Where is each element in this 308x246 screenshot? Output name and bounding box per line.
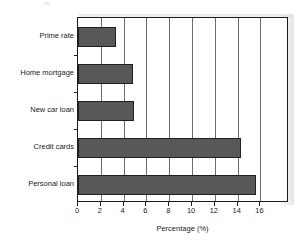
y-axis-label-personal-loan: Personal loan — [2, 179, 74, 188]
x-axis-tick-label-14: 14 — [233, 206, 241, 215]
x-axis-tick-label-8: 8 — [166, 206, 170, 215]
gridline-16 — [260, 18, 261, 201]
x-axis-tick-label-16: 16 — [255, 206, 263, 215]
bar — [78, 138, 241, 158]
y-axis-label-credit-cards: Credit cards — [2, 142, 74, 151]
x-axis-tick-label-12: 12 — [210, 206, 218, 215]
bar — [78, 27, 116, 47]
scan-artifact — [44, 2, 51, 5]
plot-area — [77, 17, 288, 202]
bar-chart-figure: Prime rateHome mortgageNew car loanCredi… — [0, 0, 308, 246]
x-axis-tick-label-2: 2 — [98, 206, 102, 215]
y-axis-label-prime-rate: Prime rate — [2, 31, 74, 40]
y-axis-category-labels: Prime rateHome mortgageNew car loanCredi… — [0, 17, 74, 202]
y-axis-minor-tick — [74, 92, 78, 93]
y-axis-minor-tick — [74, 55, 78, 56]
y-axis-label-new-car-loan: New car loan — [2, 105, 74, 114]
x-axis-title: Percentage (%) — [77, 224, 288, 233]
y-axis-minor-tick — [74, 129, 78, 130]
y-axis-minor-tick — [74, 166, 78, 167]
x-axis-tick-labels: 0246810121416 — [77, 206, 288, 218]
x-axis-tick-label-4: 4 — [121, 206, 125, 215]
bar — [78, 175, 256, 195]
x-axis-tick-label-6: 6 — [143, 206, 147, 215]
x-axis-tick-label-10: 10 — [187, 206, 195, 215]
x-axis-tick-label-0: 0 — [75, 206, 79, 215]
y-axis-label-home-mortgage: Home mortgage — [2, 68, 74, 77]
bar — [78, 101, 134, 121]
bar — [78, 64, 133, 84]
